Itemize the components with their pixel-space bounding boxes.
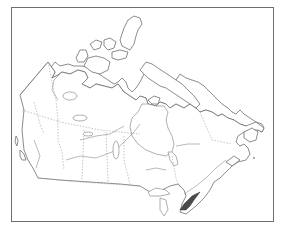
haida-gwaii <box>15 136 18 146</box>
great-slave-lake <box>73 115 87 121</box>
great-bear-lake <box>63 92 77 100</box>
banks-island <box>76 50 88 62</box>
lake-athabasca <box>83 132 93 136</box>
sable-island <box>253 157 254 158</box>
lake-huron-michigan <box>160 198 168 216</box>
canada-map <box>0 0 287 239</box>
ellesmere-island <box>120 16 142 50</box>
queen-elizabeth-islands-2 <box>104 38 116 50</box>
lake-winnipeg <box>113 141 119 159</box>
devon-island <box>112 50 128 60</box>
queen-elizabeth-islands-1 <box>90 40 102 50</box>
